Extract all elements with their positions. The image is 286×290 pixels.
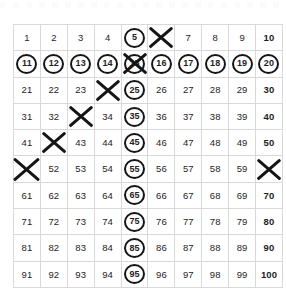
grid-cell-63[interactable]: 63 [67, 182, 94, 208]
grid-cell-23[interactable]: 23 [67, 77, 94, 103]
grid-cell-77[interactable]: 77 [175, 209, 202, 235]
grid-cell-93[interactable]: 93 [67, 261, 94, 287]
grid-cell-27[interactable]: 27 [175, 77, 202, 103]
grid-cell-5[interactable]: 5 [121, 25, 148, 51]
grid-cell-33[interactable] [67, 103, 94, 129]
grid-cell-15[interactable]: 15 [121, 51, 148, 77]
grid-cell-29[interactable]: 29 [229, 77, 256, 103]
grid-cell-48[interactable]: 48 [202, 130, 229, 156]
grid-cell-31[interactable]: 31 [14, 103, 41, 129]
grid-cell-12[interactable]: 12 [40, 51, 67, 77]
grid-cell-43[interactable]: 43 [67, 130, 94, 156]
grid-cell-42[interactable] [40, 130, 67, 156]
grid-cell-58[interactable]: 58 [202, 156, 229, 182]
grid-cell-46[interactable]: 46 [148, 130, 175, 156]
grid-cell-82[interactable]: 82 [40, 235, 67, 261]
grid-cell-57[interactable]: 57 [175, 156, 202, 182]
grid-cell-99[interactable]: 99 [229, 261, 256, 287]
grid-cell-56[interactable]: 56 [148, 156, 175, 182]
grid-cell-73[interactable]: 73 [67, 209, 94, 235]
grid-cell-80[interactable]: 80 [256, 209, 283, 235]
grid-cell-40[interactable]: 40 [256, 103, 283, 129]
grid-cell-76[interactable]: 76 [148, 209, 175, 235]
grid-cell-39[interactable]: 39 [229, 103, 256, 129]
grid-cell-10[interactable]: 10 [256, 25, 283, 51]
grid-cell-21[interactable]: 21 [14, 77, 41, 103]
grid-cell-54[interactable]: 54 [94, 156, 121, 182]
grid-cell-44[interactable]: 44 [94, 130, 121, 156]
grid-cell-25[interactable]: 25 [121, 77, 148, 103]
grid-cell-49[interactable]: 49 [229, 130, 256, 156]
grid-cell-100[interactable]: 100 [256, 261, 283, 287]
grid-cell-83[interactable]: 83 [67, 235, 94, 261]
grid-cell-66[interactable]: 66 [148, 182, 175, 208]
grid-cell-81[interactable]: 81 [14, 235, 41, 261]
grid-cell-20[interactable]: 20 [256, 51, 283, 77]
grid-cell-72[interactable]: 72 [40, 209, 67, 235]
grid-cell-65[interactable]: 65 [121, 182, 148, 208]
grid-cell-89[interactable]: 89 [229, 235, 256, 261]
grid-cell-3[interactable]: 3 [67, 25, 94, 51]
grid-cell-91[interactable]: 91 [14, 261, 41, 287]
grid-cell-71[interactable]: 71 [14, 209, 41, 235]
grid-cell-34[interactable]: 34 [94, 103, 121, 129]
grid-cell-50[interactable]: 50 [256, 130, 283, 156]
grid-cell-96[interactable]: 96 [148, 261, 175, 287]
grid-cell-70[interactable]: 70 [256, 182, 283, 208]
grid-cell-87[interactable]: 87 [175, 235, 202, 261]
grid-cell-11[interactable]: 11 [14, 51, 41, 77]
grid-cell-62[interactable]: 62 [40, 182, 67, 208]
grid-cell-18[interactable]: 18 [202, 51, 229, 77]
grid-cell-90[interactable]: 90 [256, 235, 283, 261]
grid-cell-4[interactable]: 4 [94, 25, 121, 51]
grid-cell-41[interactable]: 41 [14, 130, 41, 156]
grid-cell-60[interactable] [256, 156, 283, 182]
grid-cell-14[interactable]: 14 [94, 51, 121, 77]
grid-cell-97[interactable]: 97 [175, 261, 202, 287]
grid-cell-1[interactable]: 1 [14, 25, 41, 51]
grid-cell-6[interactable] [148, 25, 175, 51]
grid-cell-84[interactable]: 84 [94, 235, 121, 261]
grid-cell-16[interactable]: 16 [148, 51, 175, 77]
grid-cell-26[interactable]: 26 [148, 77, 175, 103]
grid-cell-2[interactable]: 2 [40, 25, 67, 51]
grid-cell-36[interactable]: 36 [148, 103, 175, 129]
grid-cell-7[interactable]: 7 [175, 25, 202, 51]
grid-cell-86[interactable]: 86 [148, 235, 175, 261]
grid-cell-30[interactable]: 30 [256, 77, 283, 103]
grid-cell-95[interactable]: 95 [121, 261, 148, 287]
grid-cell-59[interactable]: 59 [229, 156, 256, 182]
grid-cell-22[interactable]: 22 [40, 77, 67, 103]
grid-cell-51[interactable] [14, 156, 41, 182]
grid-cell-53[interactable]: 53 [67, 156, 94, 182]
grid-cell-24[interactable] [94, 77, 121, 103]
grid-cell-94[interactable]: 94 [94, 261, 121, 287]
grid-cell-55[interactable]: 55 [121, 156, 148, 182]
grid-cell-9[interactable]: 9 [229, 25, 256, 51]
grid-cell-35[interactable]: 35 [121, 103, 148, 129]
grid-cell-52[interactable]: 52 [40, 156, 67, 182]
grid-cell-8[interactable]: 8 [202, 25, 229, 51]
grid-cell-47[interactable]: 47 [175, 130, 202, 156]
grid-cell-13[interactable]: 13 [67, 51, 94, 77]
grid-cell-79[interactable]: 79 [229, 209, 256, 235]
grid-cell-37[interactable]: 37 [175, 103, 202, 129]
grid-cell-32[interactable]: 32 [40, 103, 67, 129]
grid-cell-61[interactable]: 61 [14, 182, 41, 208]
grid-cell-19[interactable]: 19 [229, 51, 256, 77]
grid-cell-85[interactable]: 85 [121, 235, 148, 261]
grid-cell-98[interactable]: 98 [202, 261, 229, 287]
grid-cell-67[interactable]: 67 [175, 182, 202, 208]
grid-cell-69[interactable]: 69 [229, 182, 256, 208]
grid-cell-75[interactable]: 75 [121, 209, 148, 235]
grid-cell-88[interactable]: 88 [202, 235, 229, 261]
grid-cell-68[interactable]: 68 [202, 182, 229, 208]
grid-cell-74[interactable]: 74 [94, 209, 121, 235]
grid-cell-92[interactable]: 92 [40, 261, 67, 287]
grid-cell-64[interactable]: 64 [94, 182, 121, 208]
grid-cell-45[interactable]: 45 [121, 130, 148, 156]
grid-cell-38[interactable]: 38 [202, 103, 229, 129]
grid-cell-28[interactable]: 28 [202, 77, 229, 103]
grid-cell-78[interactable]: 78 [202, 209, 229, 235]
grid-cell-17[interactable]: 17 [175, 51, 202, 77]
